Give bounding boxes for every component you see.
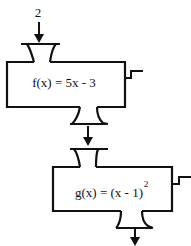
output-arrow-icon [130,229,140,246]
connecting-arrow-icon [83,126,93,146]
crank-handle-icon [172,177,191,184]
machine-f: f(x) = 5x - 3 [7,44,143,124]
formula-g-exponent: 2 [144,179,149,189]
formula-f: f(x) = 5x - 3 [32,75,96,90]
machine-g: g(x) = (x - 1) 2 [53,149,191,228]
function-machine-diagram: 2 f(x) = 5x - 3 g(x) = (x - 1) 2 [0,0,191,246]
input-hopper-f [21,44,60,62]
formula-g: g(x) = (x - 1) [75,185,143,200]
output-hopper-f [70,107,108,124]
input-value-label: 2 [35,5,42,20]
crank-handle-icon [125,71,143,78]
output-hopper-g [116,211,153,228]
input-hopper-g [70,149,108,167]
input-arrow-icon [34,22,44,43]
